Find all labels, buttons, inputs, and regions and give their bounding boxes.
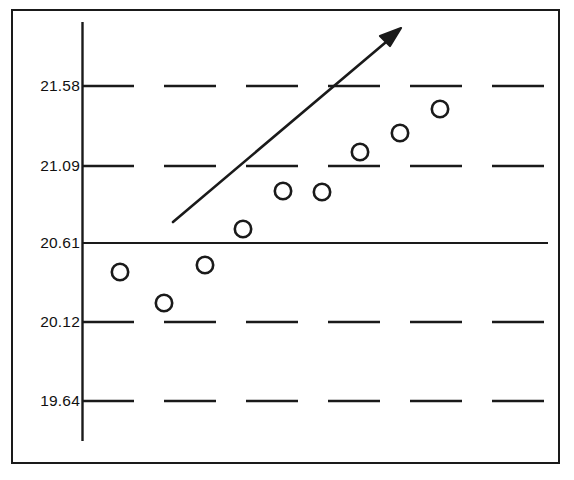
chart-figure: 21.58 21.09 20.61 20.12 19.64: [0, 0, 574, 480]
y-tick-label-21-09: 21.09: [14, 157, 80, 175]
data-point: [156, 295, 172, 311]
data-point: [235, 221, 251, 237]
data-point: [197, 257, 213, 273]
y-tick-label-19-64: 19.64: [14, 392, 80, 410]
data-point: [392, 125, 408, 141]
plot-canvas: [0, 0, 574, 480]
y-tick-label-20-12: 20.12: [14, 313, 80, 331]
y-tick-label-21-58: 21.58: [14, 77, 80, 95]
data-point: [314, 184, 330, 200]
data-point: [352, 144, 368, 160]
y-tick-label-20-61: 20.61: [14, 234, 80, 252]
data-point: [275, 183, 291, 199]
data-point: [112, 264, 128, 280]
data-point: [432, 101, 448, 117]
